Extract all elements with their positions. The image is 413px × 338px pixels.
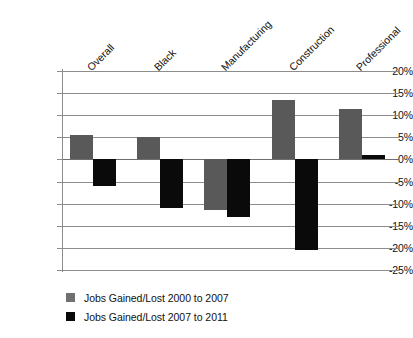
legend-label-series-a: Jobs Gained/Lost 2000 to 2007: [84, 292, 229, 304]
x-axis-label-manufacturing: Manufacturing: [220, 19, 274, 73]
gridline: [63, 71, 399, 72]
legend-item: Jobs Gained/Lost 2000 to 2007: [66, 288, 229, 307]
gridline: [63, 226, 399, 227]
legend-swatch-series-b: [66, 312, 75, 321]
x-axis-label-overall: Overall: [85, 42, 116, 73]
bar-professional-series-a: [339, 109, 362, 160]
bar-professional-series-b: [362, 155, 385, 159]
x-axis-label-construction: Construction: [287, 24, 336, 73]
chart-legend: Jobs Gained/Lost 2000 to 2007 Jobs Gaine…: [66, 288, 229, 326]
bar-construction-series-a: [272, 100, 295, 160]
gridline: [63, 248, 399, 249]
bar-overall-series-b: [93, 159, 116, 186]
plot-area: [63, 71, 399, 270]
gridline: [63, 270, 399, 271]
bar-construction-series-b: [295, 159, 318, 250]
bar-manufacturing-series-a: [204, 159, 227, 210]
bar-black-series-a: [137, 137, 160, 159]
bar-overall-series-a: [70, 135, 93, 159]
legend-label-series-b: Jobs Gained/Lost 2007 to 2011: [84, 311, 228, 323]
legend-swatch-series-a: [66, 293, 75, 302]
bar-black-series-b: [160, 159, 183, 208]
bar-chart: 20%15%10%5%0%-5%-10%-15%-20%-25% Overall…: [0, 0, 413, 338]
gridline: [63, 93, 399, 94]
x-axis-label-black: Black: [152, 47, 178, 73]
legend-item: Jobs Gained/Lost 2007 to 2011: [66, 307, 229, 326]
bar-manufacturing-series-b: [227, 159, 250, 216]
